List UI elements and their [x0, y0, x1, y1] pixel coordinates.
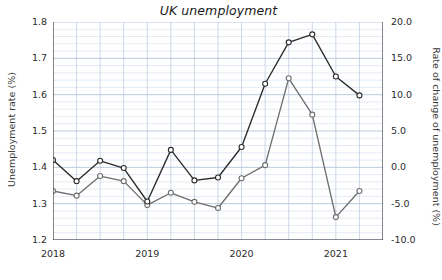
x-axis-tick-label: 2018 [23, 248, 83, 259]
y-axis-left-tick-label: 1.3 [7, 198, 47, 209]
plot-area [53, 22, 383, 240]
y-axis-right-tick-label: -5.0 [391, 198, 435, 209]
y-axis-left-tick-label: 1.4 [7, 161, 47, 172]
y-axis-left-tick-label: 1.5 [7, 125, 47, 136]
y-axis-left-tick-label: 1.6 [7, 89, 47, 100]
x-axis-tick-label: 2020 [212, 248, 272, 259]
y-axis-right-tick-label: -10.0 [391, 234, 435, 245]
chart-canvas [53, 22, 383, 240]
y-axis-right-tick-label: 10.0 [391, 89, 435, 100]
y-axis-right-tick-label: 20.0 [391, 16, 435, 27]
y-axis-left-tick-label: 1.8 [7, 16, 47, 27]
y-axis-left-tick-label: 1.2 [7, 234, 47, 245]
y-axis-right-tick-label: 5.0 [391, 125, 435, 136]
y-axis-right-tick-label: 15.0 [391, 52, 435, 63]
y-axis-left-tick-label: 1.7 [7, 52, 47, 63]
x-axis-tick-label: 2021 [306, 248, 366, 259]
y-axis-right-tick-label: 0.0 [391, 161, 435, 172]
page-title: UK unemployment [0, 3, 437, 18]
x-axis-tick-label: 2019 [117, 248, 177, 259]
